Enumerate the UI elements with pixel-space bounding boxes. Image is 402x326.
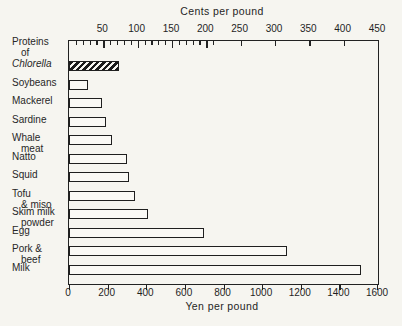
bar <box>69 228 204 238</box>
bottom-tick-label: 1400 <box>327 287 349 298</box>
category-label-line: Squid <box>12 169 76 180</box>
category-label-line: Sardine <box>12 114 76 125</box>
top-axis-minor-tick <box>124 41 125 45</box>
category-label-line: Proteins <box>12 36 76 47</box>
top-axis-minor-tick <box>103 41 104 48</box>
category-label: Soybeans <box>12 77 76 88</box>
top-axis-minor-tick <box>213 41 214 45</box>
top-tick-label: 250 <box>231 23 248 34</box>
category-label: Sardine <box>12 114 76 125</box>
category-label-line: Natto <box>12 151 76 162</box>
bottom-tick-label: 200 <box>98 287 115 298</box>
top-axis-minor-tick <box>165 41 166 45</box>
top-axis-major-tick <box>344 41 345 46</box>
top-axis-minor-tick <box>193 41 194 45</box>
top-axis-minor-tick <box>179 41 180 45</box>
top-tick-label: 100 <box>128 23 145 34</box>
top-axis-minor-tick <box>186 41 187 45</box>
top-tick-label: 150 <box>163 23 180 34</box>
top-tick-label: 300 <box>266 23 283 34</box>
top-tick-label: 200 <box>197 23 214 34</box>
bottom-axis-title: Yen per pound <box>185 300 258 312</box>
top-axis-minor-tick <box>110 41 111 45</box>
category-label-line: Skim milk <box>12 206 76 217</box>
category-label-line: of <box>12 47 76 58</box>
top-axis-minor-tick <box>158 41 159 45</box>
top-tick-label: 400 <box>334 23 351 34</box>
category-label-line: Pork & <box>12 243 76 254</box>
bar <box>69 209 148 219</box>
category-label-line: Mackerel <box>12 95 76 106</box>
bottom-tick-label: 400 <box>137 287 154 298</box>
bar <box>69 154 127 164</box>
category-label: Squid <box>12 169 76 180</box>
top-axis-minor-tick <box>96 41 97 45</box>
category-label: Milk <box>12 262 76 273</box>
bottom-tick-label: 600 <box>176 287 193 298</box>
top-axis-minor-tick <box>199 41 200 45</box>
plot-area <box>68 40 379 285</box>
bar <box>69 265 361 275</box>
category-label-line: Egg <box>12 225 76 236</box>
bottom-tick-label: 800 <box>214 287 231 298</box>
category-label-line: Chlorella <box>12 58 76 69</box>
bar <box>69 246 287 256</box>
top-tick-label: 350 <box>300 23 317 34</box>
category-label: ProteinsofChlorella <box>12 36 76 69</box>
top-axis-minor-tick <box>90 41 91 45</box>
category-label-line: Whale <box>12 132 76 143</box>
top-axis-major-tick <box>275 41 276 46</box>
top-axis-title: Cents per pound <box>180 5 264 17</box>
bar <box>69 172 129 182</box>
category-label: Egg <box>12 225 76 236</box>
bottom-tick-label: 1600 <box>366 287 388 298</box>
protein-cost-bar-chart: Cents per pound Yen per pound 5010015020… <box>0 0 402 326</box>
top-tick-label: 50 <box>97 23 108 34</box>
category-label-line: Soybeans <box>12 77 76 88</box>
top-axis-minor-tick <box>151 41 152 45</box>
bottom-tick-label: 0 <box>65 287 71 298</box>
bar-hatched <box>69 61 119 71</box>
top-axis-minor-tick <box>172 41 173 48</box>
category-label-line: Milk <box>12 262 76 273</box>
top-axis-minor-tick <box>206 41 207 48</box>
top-axis-minor-tick <box>131 41 132 45</box>
bottom-tick-label: 1200 <box>289 287 311 298</box>
category-label: Natto <box>12 151 76 162</box>
top-tick-label: 450 <box>369 23 386 34</box>
bar <box>69 191 135 201</box>
top-axis-minor-tick <box>138 41 139 48</box>
top-axis-minor-tick <box>145 41 146 45</box>
bottom-tick-label: 1000 <box>250 287 272 298</box>
category-label: Mackerel <box>12 95 76 106</box>
top-axis-minor-tick <box>76 41 77 45</box>
top-axis-major-tick <box>241 41 242 46</box>
top-axis-minor-tick <box>83 41 84 45</box>
top-axis-minor-tick <box>117 41 118 45</box>
top-axis-major-tick <box>309 41 310 46</box>
category-label-line: Tofu <box>12 188 76 199</box>
